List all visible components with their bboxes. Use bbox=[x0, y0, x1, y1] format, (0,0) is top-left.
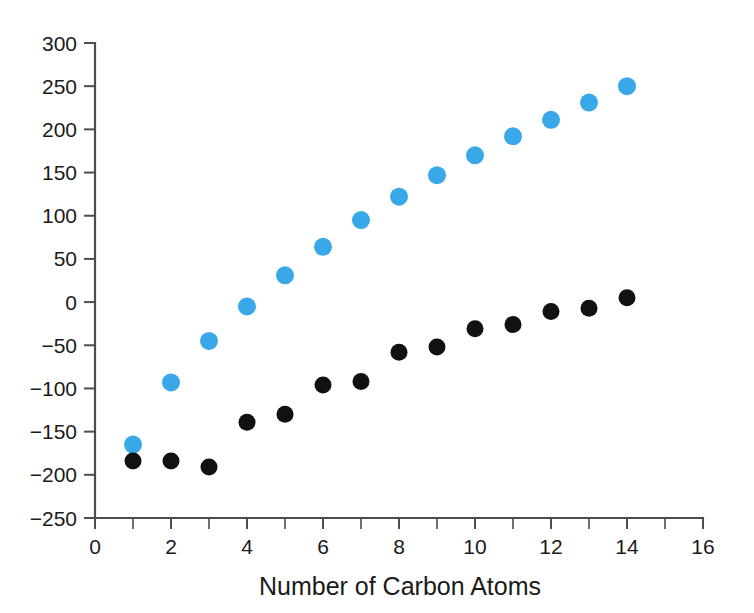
data-point bbox=[201, 459, 218, 476]
x-tick-label: 2 bbox=[165, 535, 177, 558]
x-tick-label: 4 bbox=[241, 535, 253, 558]
data-point bbox=[428, 166, 446, 184]
y-tick-label: 50 bbox=[54, 247, 77, 270]
data-point bbox=[390, 188, 408, 206]
data-point bbox=[391, 344, 408, 361]
data-point bbox=[238, 297, 256, 315]
data-point bbox=[619, 289, 636, 306]
data-point bbox=[125, 453, 142, 470]
data-point bbox=[277, 406, 294, 423]
y-tick-label: 300 bbox=[42, 32, 77, 55]
data-point bbox=[353, 373, 370, 390]
y-tick-label: 250 bbox=[42, 75, 77, 98]
data-point bbox=[618, 77, 636, 95]
y-tick-label: −100 bbox=[30, 377, 77, 400]
x-axis-title: Number of Carbon Atoms bbox=[259, 572, 541, 600]
data-point bbox=[504, 127, 522, 145]
x-tick-label: 10 bbox=[463, 535, 486, 558]
y-axis-ticks: −250−200−150−100−50050100150200250300 bbox=[30, 32, 95, 530]
y-tick-label: −250 bbox=[30, 507, 77, 530]
data-point bbox=[505, 316, 522, 333]
y-tick-label: 200 bbox=[42, 118, 77, 141]
x-tick-label: 16 bbox=[691, 535, 714, 558]
data-point bbox=[429, 339, 446, 356]
y-tick-label: −150 bbox=[30, 420, 77, 443]
data-point bbox=[163, 453, 180, 470]
data-point bbox=[200, 332, 218, 350]
data-point bbox=[580, 94, 598, 112]
data-point bbox=[352, 211, 370, 229]
data-point bbox=[276, 266, 294, 284]
data-point bbox=[543, 303, 560, 320]
y-tick-label: 100 bbox=[42, 204, 77, 227]
data-point bbox=[239, 414, 256, 431]
scatter-chart: −250−200−150−100−50050100150200250300 02… bbox=[0, 0, 754, 613]
data-point bbox=[466, 146, 484, 164]
data-point bbox=[581, 300, 598, 317]
data-point bbox=[542, 111, 560, 129]
data-point bbox=[314, 238, 332, 256]
y-tick-label: −50 bbox=[41, 334, 77, 357]
y-tick-label: 0 bbox=[65, 291, 77, 314]
plot-area: −250−200−150−100−50050100150200250300 02… bbox=[0, 0, 754, 613]
y-tick-label: 150 bbox=[42, 161, 77, 184]
x-axis-ticks: 0246810121416 bbox=[89, 518, 715, 558]
data-point bbox=[162, 373, 180, 391]
x-tick-label: 0 bbox=[89, 535, 101, 558]
x-tick-label: 6 bbox=[317, 535, 329, 558]
y-tick-label: −200 bbox=[30, 463, 77, 486]
x-tick-label: 14 bbox=[615, 535, 639, 558]
data-point bbox=[467, 320, 484, 337]
data-point bbox=[315, 377, 332, 394]
data-points bbox=[124, 77, 636, 475]
x-tick-label: 12 bbox=[539, 535, 562, 558]
axes bbox=[95, 43, 703, 518]
data-point bbox=[124, 436, 142, 454]
x-tick-label: 8 bbox=[393, 535, 405, 558]
